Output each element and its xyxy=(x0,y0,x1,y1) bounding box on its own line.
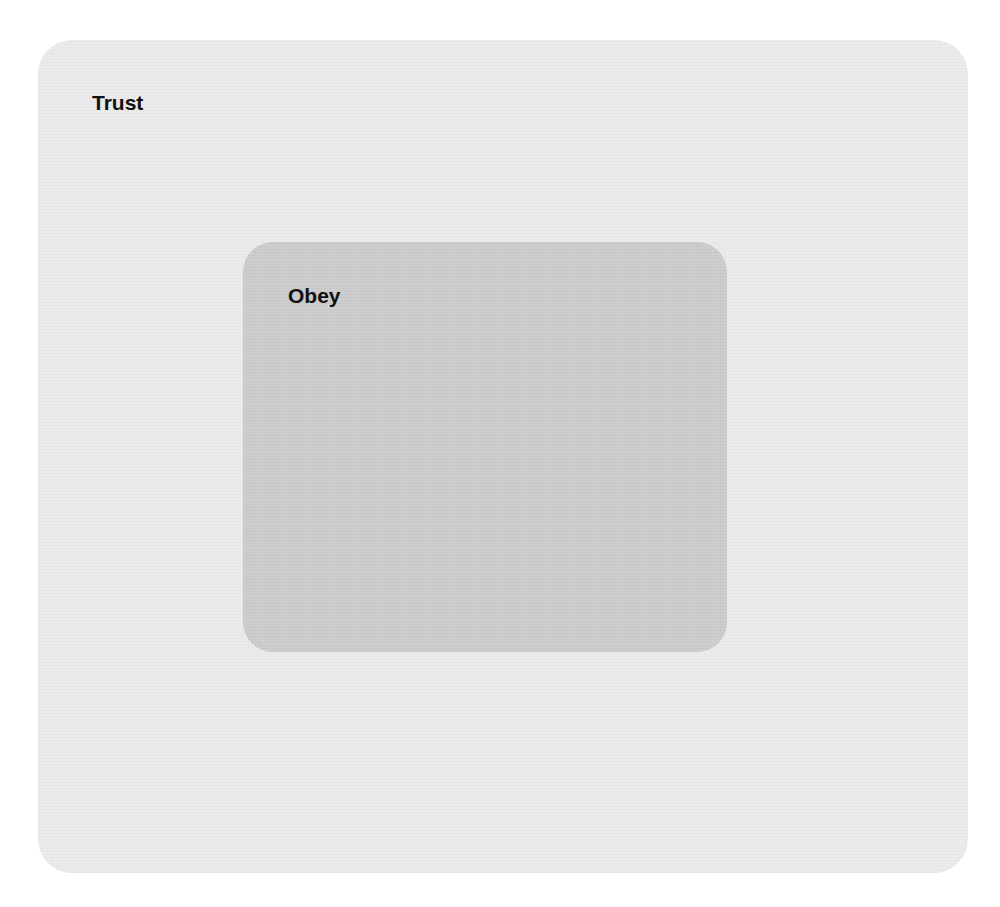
trust-region: Trust Obey xyxy=(38,40,968,873)
obey-label: Obey xyxy=(288,284,341,308)
obey-region: Obey xyxy=(243,242,727,652)
trust-label: Trust xyxy=(92,91,143,115)
